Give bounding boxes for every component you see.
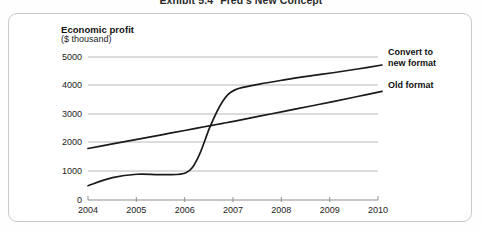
y-axis-ticks: 5000 4000 3000 2000 1000 0 [62, 52, 82, 205]
y-tick-label: 1000 [62, 166, 82, 176]
y-tick-label: 4000 [62, 80, 82, 90]
chart-plot-area: 5000 4000 3000 2000 1000 0 2004 2005 200… [0, 0, 482, 231]
x-tick-label: 2006 [175, 205, 195, 215]
series-line-old-format [88, 91, 382, 148]
x-tick-label: 2005 [126, 205, 146, 215]
x-tick-label: 2010 [368, 205, 388, 215]
series-label-new-format: Convert to new format [388, 47, 436, 68]
y-tick-label: 2000 [62, 137, 82, 147]
y-tick-label: 0 [77, 195, 82, 205]
y-tick-label: 5000 [62, 52, 82, 62]
exhibit-figure: Exhibit 5.4Fred's New Concept Economic p… [0, 0, 482, 231]
x-tick-label: 2008 [271, 205, 291, 215]
x-tick-label: 2004 [78, 205, 98, 215]
gridlines [88, 57, 378, 171]
series-line-new-format [88, 65, 382, 186]
y-tick-label: 3000 [62, 109, 82, 119]
x-tick-label: 2009 [320, 205, 340, 215]
x-tick-label: 2007 [223, 205, 243, 215]
series-label-old-format: Old format [388, 80, 434, 91]
